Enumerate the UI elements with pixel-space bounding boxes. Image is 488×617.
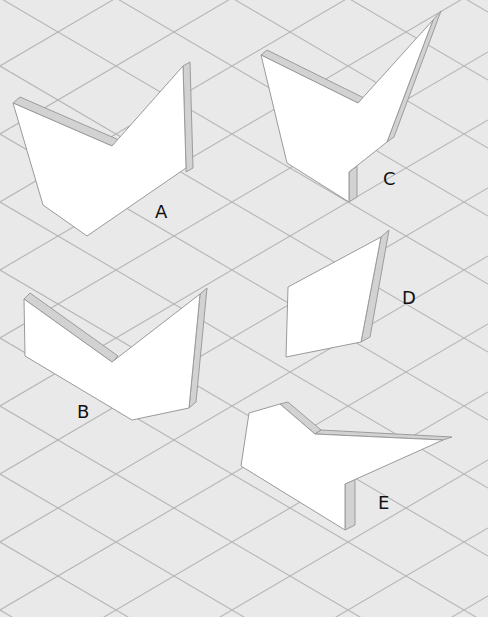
shape-d — [286, 230, 389, 357]
isometric-scene — [0, 0, 488, 617]
shape-label-b: B — [77, 403, 89, 421]
shape-label-c: C — [383, 170, 396, 188]
shape-c-face — [261, 20, 433, 202]
shape-e-thickness-edge — [345, 479, 355, 530]
shape-c — [261, 11, 441, 202]
shape-label-d: D — [402, 289, 416, 307]
shape-e — [241, 402, 452, 530]
diagram-canvas: A B C D E — [0, 0, 488, 617]
shape-label-a: A — [155, 203, 167, 221]
shape-label-e: E — [378, 494, 389, 512]
isometric-grid — [0, 0, 488, 617]
shape-e-face — [241, 404, 443, 530]
